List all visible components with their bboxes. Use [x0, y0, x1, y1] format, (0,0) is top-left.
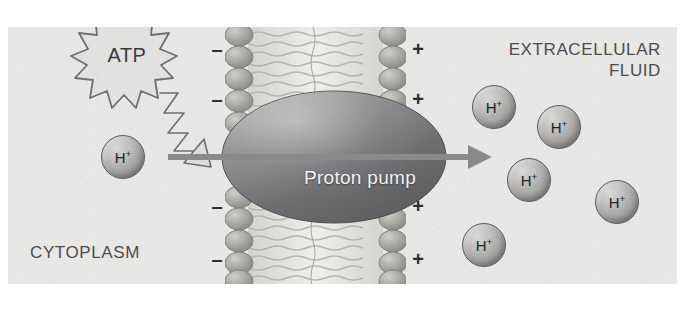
ion-symbol: H+ — [476, 237, 493, 253]
ion-symbol: H+ — [486, 99, 503, 115]
ion-extracellular-4: H+ — [595, 180, 639, 224]
extracellular-fluid-label: EXTRACELLULAR FLUID — [509, 39, 661, 82]
ion-extracellular-1: H+ — [472, 85, 516, 129]
atp-label: ATP — [108, 44, 147, 67]
ion-symbol: H+ — [115, 149, 132, 165]
ion-symbol: H+ — [551, 119, 568, 135]
ion-extracellular-5: H+ — [462, 223, 506, 267]
cytoplasm-label: CYTOPLASM — [30, 242, 140, 263]
proton-pump-figure: – – – – + + + + H+H+H+H+H+H+ EXTRACELLUL… — [8, 27, 677, 284]
ion-cytoplasm-1: H+ — [101, 135, 145, 179]
diagram-stage: – – – – + + + + H+H+H+H+H+H+ EXTRACELLUL… — [0, 0, 685, 311]
ion-symbol: H+ — [609, 194, 626, 210]
ion-symbol: H+ — [521, 172, 538, 188]
ion-extracellular-2: H+ — [537, 105, 581, 149]
ion-extracellular-3: H+ — [507, 158, 551, 202]
proton-pump-label: Proton pump — [304, 167, 416, 189]
